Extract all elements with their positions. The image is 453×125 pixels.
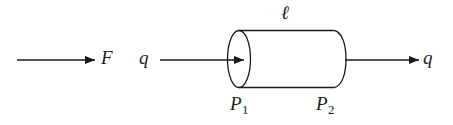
pressure-1-label: P1 xyxy=(230,94,249,117)
force-label: F xyxy=(101,48,113,67)
pressure-1-subscript: 1 xyxy=(242,102,249,117)
pressure-1-base: P xyxy=(230,93,242,114)
outlet-flow-label: q xyxy=(423,48,433,67)
pipe-right-cap xyxy=(335,31,347,88)
pressure-2-subscript: 2 xyxy=(328,102,335,117)
pressure-2-base: P xyxy=(316,93,328,114)
pressure-2-label: P2 xyxy=(316,94,335,117)
pipe-flow-diagram: F q q ℓ P1 P2 xyxy=(0,0,453,125)
diagram-canvas xyxy=(0,0,453,125)
pipe-length-label: ℓ xyxy=(281,3,289,22)
inlet-flow-label: q xyxy=(139,48,149,67)
pipe-left-face xyxy=(228,31,251,88)
